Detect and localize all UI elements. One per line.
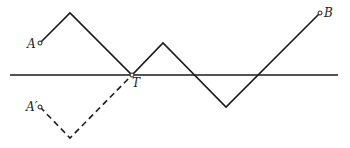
reflection-diagram: A A′ T B: [0, 0, 350, 148]
point-a-prime-marker: [38, 105, 42, 109]
label-a: A: [26, 37, 36, 51]
label-a-prime: A′: [25, 100, 38, 114]
label-b: B: [323, 6, 333, 20]
label-t: T: [132, 76, 141, 90]
point-a-marker: [38, 41, 42, 45]
point-b-marker: [318, 11, 322, 15]
reflected-dashed-path: [40, 75, 132, 138]
solid-path: [40, 13, 320, 107]
